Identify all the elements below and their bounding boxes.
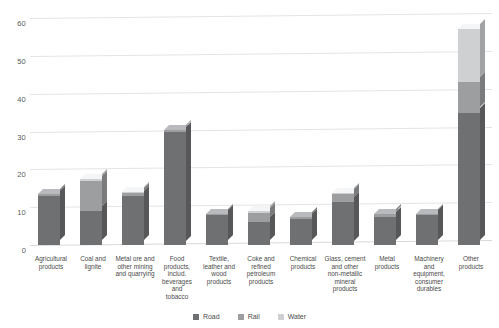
legend-item-road[interactable]: Road [193,313,220,320]
x-axis-label-line: refined [240,263,282,271]
legend-swatch-icon [238,314,244,320]
x-axis-label-line: products [324,285,366,293]
x-axis-label-line: tobacco [156,293,198,301]
x-axis-label-line: Other [450,255,492,263]
x-axis-label-line: Coal and [72,255,114,263]
legend-item-water[interactable]: Water [278,313,306,320]
x-axis-label: Metalproducts [366,255,408,270]
x-axis-label-line: equipment, [408,270,450,278]
x-axis-label-line: Coke and [240,255,282,263]
x-axis-label-line: and quarrying [114,270,156,278]
x-axis-label-line: products [366,263,408,271]
x-axis-label-line: beverages and [156,278,198,293]
x-axis-label-line: non-metallic [324,270,366,278]
legend-label: Road [203,313,220,320]
y-tick-label-10: 10 [2,208,26,217]
bar-segment-road [332,202,354,246]
x-axis-label-line: Metal [366,255,408,263]
x-axis-label-line: durables [408,285,450,293]
y-tick-label-40: 40 [2,95,26,104]
x-axis-label-line: wood [198,270,240,278]
y-tick-label-30: 30 [2,133,26,142]
x-axis-label: Metal ore andother miningand quarrying [114,255,156,278]
x-axis-label-line: and [408,263,450,271]
plot-area: 0102030405060 [30,14,492,250]
legend-swatch-icon [278,314,284,320]
bar-segment-rail [80,181,102,211]
x-axis-label-line: products [240,278,282,286]
x-axis-label-line: Machinery [408,255,450,263]
x-axis-label-line: other mining [114,263,156,271]
columns-group [30,14,492,250]
y-tick-label-50: 50 [2,57,26,66]
legend-swatch-icon [193,314,199,320]
bar-segment-road [206,215,228,245]
x-axis-label: Chemicalproducts [282,255,324,270]
x-axis-label-line: Textile, [198,255,240,263]
bar-segment-road [164,132,186,246]
bar-segment-road [248,222,270,245]
x-axis-label: Glass, cementand othernon-metallicminera… [324,255,366,293]
x-axis-category-labels: AgriculturalproductsCoal andligniteMetal… [30,255,496,303]
x-axis-label-line: products, [156,263,198,271]
x-axis-label-line: Metal ore and [114,255,156,263]
x-axis-label-line: consumer [408,278,450,286]
chart-legend: RoadRailWater [0,313,499,320]
bar-segment-road [458,113,480,245]
legend-label: Water [288,313,306,320]
bar-segment-road [122,196,144,245]
x-axis-label-line: products [198,278,240,286]
legend-item-rail[interactable]: Rail [238,313,260,320]
x-axis-label-line: mineral [324,278,366,286]
bar-segment-water [458,29,480,82]
x-axis-label: Otherproducts [450,255,492,270]
x-axis-label-line: leather and [198,263,240,271]
x-axis-label-line: Chemical [282,255,324,263]
x-axis-label-line: and other [324,263,366,271]
x-axis-label-line: lignite [72,263,114,271]
x-axis-label-line: Glass, cement [324,255,366,263]
bar-segment-rail [458,82,480,112]
x-axis-label: Coal andlignite [72,255,114,270]
y-tick-label-0: 0 [2,246,26,255]
legend-label: Rail [248,313,260,320]
x-axis-label: Coke andrefinedpetroleumproducts [240,255,282,285]
y-tick-label-20: 20 [2,170,26,179]
x-axis-label-line: products [282,263,324,271]
x-axis-label-line: Food [156,255,198,263]
stacked-column-chart: 0102030405060 AgriculturalproductsCoal a… [0,0,499,328]
x-axis-label: Agriculturalproducts [30,255,72,270]
x-axis-label: Textile,leather andwoodproducts [198,255,240,285]
x-axis-label: Foodproducts,includ.beverages andtobacco [156,255,198,301]
x-axis-label-line: petroleum [240,270,282,278]
bar-segment-rail [332,194,354,202]
x-axis-label: Machineryandequipment,consumerdurables [408,255,450,293]
bar-segment-rail [248,213,270,222]
bar-segment-road [374,217,396,245]
bar-segment-road [38,196,60,245]
x-axis-label-line: includ. [156,270,198,278]
bar-segment-road [80,211,102,245]
x-axis-label-line: Agricultural [30,255,72,263]
x-axis-label-line: products [30,263,72,271]
y-tick-label-60: 60 [2,19,26,28]
bar-segment-road [290,219,312,245]
x-axis-label-line: products [450,263,492,271]
bar-segment-road [416,215,438,245]
